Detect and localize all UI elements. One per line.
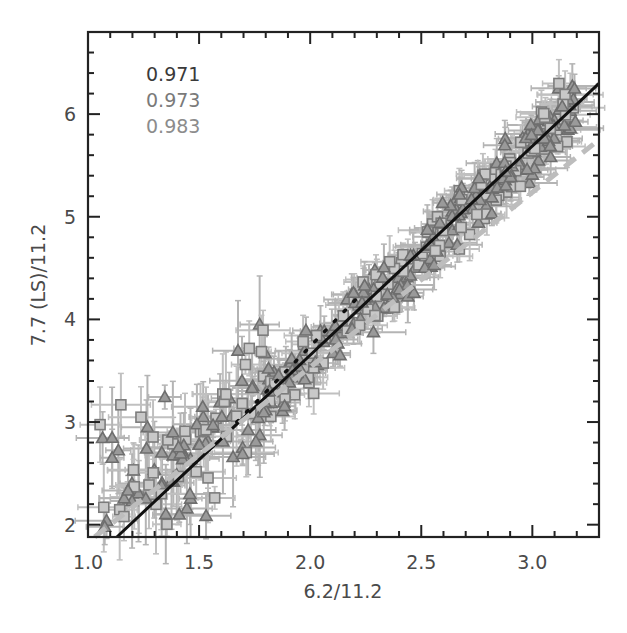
- square-marker: [162, 519, 172, 529]
- x-tick-label: 2.5: [406, 551, 436, 573]
- square-marker: [128, 465, 138, 475]
- square-marker: [237, 399, 247, 409]
- y-tick-label: 4: [64, 308, 76, 330]
- square-marker: [456, 222, 466, 232]
- y-axis-label: 7.7 (LS)/11.2: [27, 224, 49, 346]
- y-tick-label: 5: [64, 206, 76, 228]
- square-marker: [256, 347, 266, 357]
- square-marker: [191, 467, 201, 477]
- square-marker: [116, 400, 126, 410]
- y-tick-label: 2: [64, 514, 76, 536]
- square-marker: [290, 390, 300, 400]
- square-marker: [136, 412, 146, 422]
- square-marker: [240, 360, 250, 370]
- square-marker: [99, 502, 109, 512]
- square-marker: [560, 89, 570, 99]
- square-marker: [210, 493, 220, 503]
- correlation-value: 0.983: [146, 115, 200, 137]
- solid-fit-line: [117, 83, 599, 537]
- square-marker: [148, 432, 158, 442]
- square-marker: [244, 343, 254, 353]
- correlation-value: 0.973: [146, 89, 200, 111]
- square-marker: [554, 78, 564, 88]
- square-marker: [180, 426, 190, 436]
- x-tick-label: 3.0: [517, 551, 547, 573]
- square-marker: [472, 209, 482, 219]
- square-marker: [203, 473, 213, 483]
- x-tick-label: 2.0: [295, 551, 325, 573]
- square-marker: [148, 468, 158, 478]
- correlation-value: 0.971: [146, 63, 200, 85]
- correlation-annotations: 0.9710.9730.983: [146, 63, 200, 137]
- square-marker: [515, 181, 525, 191]
- square-marker: [309, 388, 319, 398]
- x-tick-label: 1.0: [73, 551, 103, 573]
- x-tick-label: 1.5: [184, 551, 214, 573]
- scatter-chart: 1.01.52.02.53.023456 6.2/11.2 7.7 (LS)/1…: [0, 0, 627, 633]
- x-axis-label: 6.2/11.2: [304, 580, 383, 602]
- square-marker: [430, 246, 440, 256]
- square-marker: [258, 325, 268, 335]
- y-tick-label: 6: [64, 103, 76, 125]
- square-marker: [221, 389, 231, 399]
- y-tick-label: 3: [64, 411, 76, 433]
- square-marker: [298, 337, 308, 347]
- square-marker: [539, 109, 549, 119]
